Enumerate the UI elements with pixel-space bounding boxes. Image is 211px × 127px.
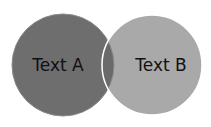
venn-diagram: Text A Text B (0, 0, 211, 127)
set-a-label: Text A (31, 55, 84, 75)
set-b-label: Text B (134, 55, 186, 75)
